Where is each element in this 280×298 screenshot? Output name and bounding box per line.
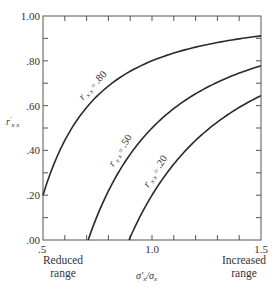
increased-range-line1: Increased <box>222 254 266 266</box>
curve-label-group: r x x = .50 <box>106 132 136 169</box>
y-tick-label: .20 <box>26 189 40 201</box>
y-tick-label: 1.00 <box>21 10 41 22</box>
curve-r20 <box>129 96 261 240</box>
y-tick-label: .60 <box>26 100 40 112</box>
curve-label-group: r x x = .80 <box>77 68 111 103</box>
y-tick-label: .40 <box>26 144 40 156</box>
tick-labels: .51.01.5.00.20.40.60.801.00 <box>21 10 269 255</box>
increased-range-line2: range <box>231 267 257 280</box>
curve-label: r x x = .80 <box>77 68 111 103</box>
y-tick-label: .80 <box>26 55 40 67</box>
curve-label: r x x = .20 <box>141 153 171 190</box>
curves <box>43 36 261 240</box>
x-tick-label: 1.0 <box>145 243 159 255</box>
curve-label: r x x = .50 <box>106 132 136 169</box>
x-axis-label: σ′x/σx <box>136 270 158 283</box>
curve-r50 <box>88 66 261 240</box>
chart: .51.01.5.00.20.40.60.801.00 r x x = .80r… <box>0 0 280 298</box>
y-axis-label: r′x x <box>6 115 20 129</box>
curve-labels: r x x = .80r x x = .50r x x = .20 <box>77 68 172 189</box>
reduced-range-line2: range <box>50 267 76 280</box>
reduced-range-line1: Reduced <box>43 254 83 266</box>
curve-label-group: r x x = .20 <box>141 153 171 190</box>
y-tick-label: .00 <box>26 234 40 246</box>
